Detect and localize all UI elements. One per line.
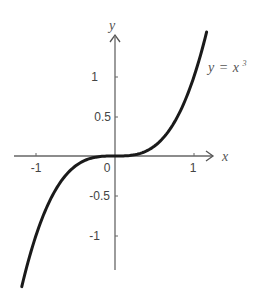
x-axis-label: x: [221, 149, 229, 164]
curve-label-x: x: [232, 60, 240, 75]
y-tick-label: -1: [89, 229, 100, 243]
x-axis: -1 0 1 x: [14, 149, 229, 175]
y-tick-label: 1: [91, 70, 98, 84]
curve-label: y = x 3: [206, 59, 246, 75]
cubic-function-plot: -1 0 1 x 1 0.5 -0.5 -1 y y = x 3: [0, 0, 253, 304]
x-tick-label: -1: [31, 161, 42, 175]
curve-label-y: y: [206, 60, 215, 75]
y-tick-label: -0.5: [89, 189, 110, 203]
cubic-curve: [22, 32, 207, 287]
y-axis-label: y: [107, 18, 116, 33]
y-axis: 1 0.5 -0.5 -1 y: [89, 18, 120, 270]
curve-label-equals: =: [219, 60, 228, 75]
y-tick-label: 0.5: [94, 110, 111, 124]
x-tick-label: 0: [104, 161, 111, 175]
x-tick-label: 1: [190, 161, 197, 175]
curve-label-exponent: 3: [241, 59, 246, 68]
